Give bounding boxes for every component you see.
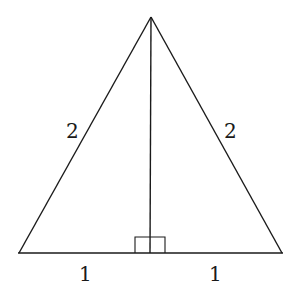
right-angle-marker-right: [150, 237, 165, 253]
right-angle-marker-left: [135, 237, 150, 253]
left-side-label: 2: [66, 121, 79, 141]
right-side-label: 2: [224, 121, 237, 141]
triangle-diagram: 2 2 1 1: [0, 0, 307, 290]
left-side: [19, 17, 151, 253]
triangle-figure: [0, 0, 307, 290]
base-left-segment-label: 1: [79, 264, 92, 284]
base-right-segment-label: 1: [209, 264, 222, 284]
altitude: [150, 17, 151, 253]
right-side: [151, 17, 282, 253]
